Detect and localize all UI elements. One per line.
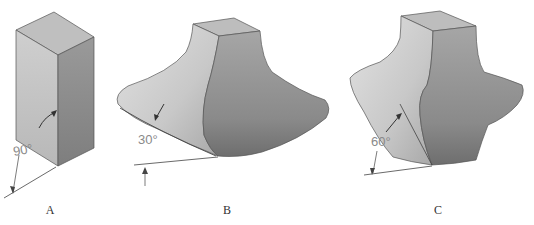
prism-right-face — [58, 37, 94, 166]
draft-angle-diagram: 90° A 30° B 60° C — [0, 0, 534, 225]
dimension-leader-a — [13, 155, 19, 192]
shape-c-right-face — [420, 26, 524, 165]
base-line-b — [134, 157, 218, 165]
angle-label-c: 60° — [371, 134, 391, 149]
figure-label-b: B — [223, 203, 231, 217]
angle-label-b: 30° — [138, 132, 158, 147]
shape-b-left-face — [117, 24, 219, 156]
shape-b-right-face — [203, 31, 329, 157]
base-line-a — [4, 167, 56, 198]
figure-c: 60° C — [350, 11, 523, 217]
figure-b: 30° B — [117, 18, 329, 217]
figure-label-c: C — [434, 203, 442, 217]
angle-label-a: 90° — [12, 141, 34, 159]
figure-a: 90° A — [4, 12, 94, 217]
figure-label-a: A — [46, 203, 55, 217]
arrowhead-b2 — [142, 167, 148, 174]
